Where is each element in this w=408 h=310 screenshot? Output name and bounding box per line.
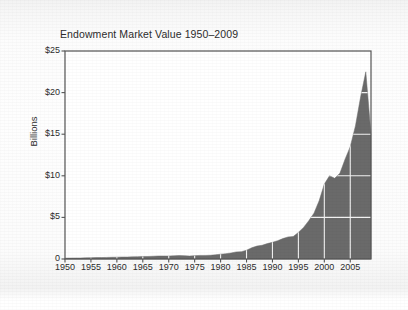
chart-figure: Endowment Market Value 1950–2009 Billion… bbox=[0, 0, 408, 310]
plot-area bbox=[0, 0, 408, 310]
scanned-page: Endowment Market Value 1950–2009 Billion… bbox=[0, 0, 408, 310]
